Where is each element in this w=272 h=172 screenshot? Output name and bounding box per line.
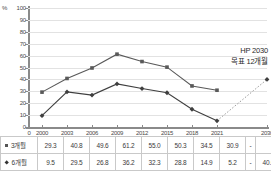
- table-cell: 29.3: [38, 137, 64, 154]
- table-cell: 5.2: [220, 154, 246, 171]
- table-cell: 14.9: [194, 154, 220, 171]
- table-cell: 9.5: [38, 154, 64, 171]
- table-cell: -: [246, 137, 256, 154]
- table-cell: 30.9: [220, 137, 246, 154]
- data-point-marker: [215, 88, 219, 92]
- table-cell: 40.0: [256, 154, 272, 171]
- table-cell: 36.2: [116, 154, 142, 171]
- table-cell: -: [246, 154, 256, 171]
- line-chart: % 1009080706050403020100 020002003200620…: [0, 0, 271, 131]
- table-row-label-text: 6개월: [11, 159, 26, 166]
- table-cell: 49.6: [90, 137, 116, 154]
- data-point-marker: [90, 66, 94, 70]
- annotation-line-1: HP 2030: [231, 45, 268, 56]
- data-point-marker: [190, 84, 194, 88]
- table-cell: 61.2: [116, 137, 142, 154]
- data-point-marker: [90, 93, 95, 98]
- data-point-marker: [115, 82, 120, 87]
- table-cell: 34.5: [194, 137, 220, 154]
- data-point-marker: [215, 118, 220, 123]
- table-row: 3개월29.340.849.661.255.050.334.530.9-: [1, 137, 272, 154]
- data-point-marker: [165, 65, 169, 69]
- table-row-label-text: 3개월: [11, 142, 26, 149]
- table-cell: [256, 137, 272, 154]
- table-cell: 28.8: [168, 154, 194, 171]
- table-cell: 40.8: [64, 137, 90, 154]
- data-point-marker: [40, 90, 44, 94]
- projection-line: [217, 79, 267, 120]
- table-row: 6개월9.529.526.836.232.328.814.95.2-40.0: [1, 154, 272, 171]
- annotation-line-2: 목표 12개월: [231, 56, 268, 67]
- data-table: 3개월29.340.849.661.255.050.334.530.9-6개월9…: [0, 136, 271, 171]
- legend-diamond-icon: [4, 160, 9, 165]
- table-cell: 29.5: [64, 154, 90, 171]
- table-cell: 26.8: [90, 154, 116, 171]
- table-cell: 50.3: [168, 137, 194, 154]
- table-row-label: 3개월: [1, 137, 38, 154]
- table-cell: 32.3: [142, 154, 168, 171]
- data-point-marker: [140, 60, 144, 64]
- data-point-marker: [65, 77, 69, 81]
- table-row-label: 6개월: [1, 154, 38, 171]
- legend-square-icon: [5, 144, 8, 147]
- chart-figure: % 1009080706050403020100 020002003200620…: [0, 0, 271, 172]
- table-cell: 55.0: [142, 137, 168, 154]
- data-point-marker: [115, 52, 119, 56]
- series-line-2: [42, 84, 217, 121]
- hp2030-annotation: HP 2030 목표 12개월: [231, 45, 268, 67]
- data-point-marker: [140, 86, 145, 91]
- data-point-marker: [265, 77, 270, 82]
